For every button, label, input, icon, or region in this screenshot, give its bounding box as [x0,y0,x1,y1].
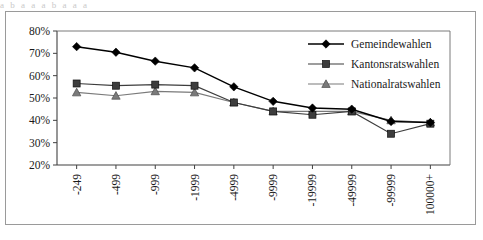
x-tick-label: -99999 [385,174,397,207]
chart-figure: a b a a a b a a a 20%30%40%50%60%70%80% … [0,0,483,240]
legend-label: Gemeindewahlen [351,38,432,50]
y-tick-label: 30% [29,137,51,149]
y-tick-label: 50% [29,92,51,104]
x-tick-label: -49999 [346,174,358,207]
y-tick-label: 80% [29,25,51,37]
y-tick-label: 60% [29,70,51,82]
x-tick-label: -19999 [306,174,318,207]
x-tick-label: -249 [71,174,83,195]
y-tick-label: 70% [29,47,51,59]
x-tick-label: -499 [110,174,122,195]
marker-square [191,82,198,89]
x-tick-label: -999 [149,174,161,195]
y-tick-label: 40% [29,114,51,126]
x-tick-label: 100000+ [424,174,436,215]
legend-label: Nationalratswahlen [351,78,441,90]
marker-square [323,61,330,68]
cropped-text-artifact: a b a a a b a a a [0,0,483,9]
marker-square [270,108,277,115]
marker-square [230,99,237,106]
line-chart: 20%30%40%50%60%70%80% -249-499-999-1999-… [0,0,483,240]
x-tick-label: -9999 [267,174,279,201]
marker-square [152,81,159,88]
y-tick-label: 20% [29,159,51,171]
marker-square [388,130,395,137]
marker-square [73,80,80,87]
marker-square [112,82,119,89]
x-tick-label: -1999 [189,174,201,201]
legend-label: Kantonsratswahlen [351,58,439,70]
x-tick-label: -4999 [228,174,240,201]
